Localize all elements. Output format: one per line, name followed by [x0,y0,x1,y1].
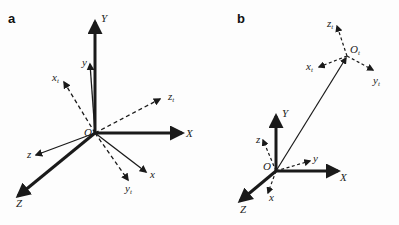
label-origin-a: O [84,126,92,138]
world-z-axis-a [18,133,95,196]
label-world-z-a: Z [16,197,23,209]
figure-svg: a Y X Z O y x z xt zt yt b [0,0,399,225]
target-zt-axis-a [95,99,160,133]
label-target-yt-b: yt [372,74,381,88]
label-target-yt-a: yt [124,182,133,196]
body-x-axis-a [95,133,146,172]
target-yt-axis-a [95,133,128,180]
label-body-x-a: x [149,168,155,180]
label-world-x-b: X [339,171,348,183]
label-body-z-b: z [255,133,261,145]
label-body-y-b: y [312,152,318,164]
label-target-zt-a: zt [167,90,175,104]
label-origin-b: O [263,160,271,172]
target-xt-axis-b [319,56,347,67]
coordinate-frames-figure: a Y X Z O y x z xt zt yt b [0,0,399,225]
label-world-y-a: Y [101,12,109,24]
target-yt-axis-b [347,56,373,70]
target-zt-axis-b [337,26,347,56]
panel-label-b: b [237,11,245,26]
label-body-z-a: z [26,148,32,160]
label-target-zt-b: zt [326,17,334,31]
panel-b: b Y X Z O z y x Ot zt xt yt [237,11,381,215]
label-target-xt-a: xt [51,71,60,85]
label-target-origin-b: Ot [350,43,361,57]
label-world-x-a: X [185,127,194,139]
label-body-x-b: x [268,191,274,203]
label-target-xt-b: xt [305,60,314,74]
label-world-y-b: Y [282,107,290,119]
panel-label-a: a [8,11,16,26]
label-body-y-a: y [81,56,87,68]
panel-a: a Y X Z O y x z xt zt yt [8,11,194,209]
label-world-z-b: Z [240,203,247,215]
